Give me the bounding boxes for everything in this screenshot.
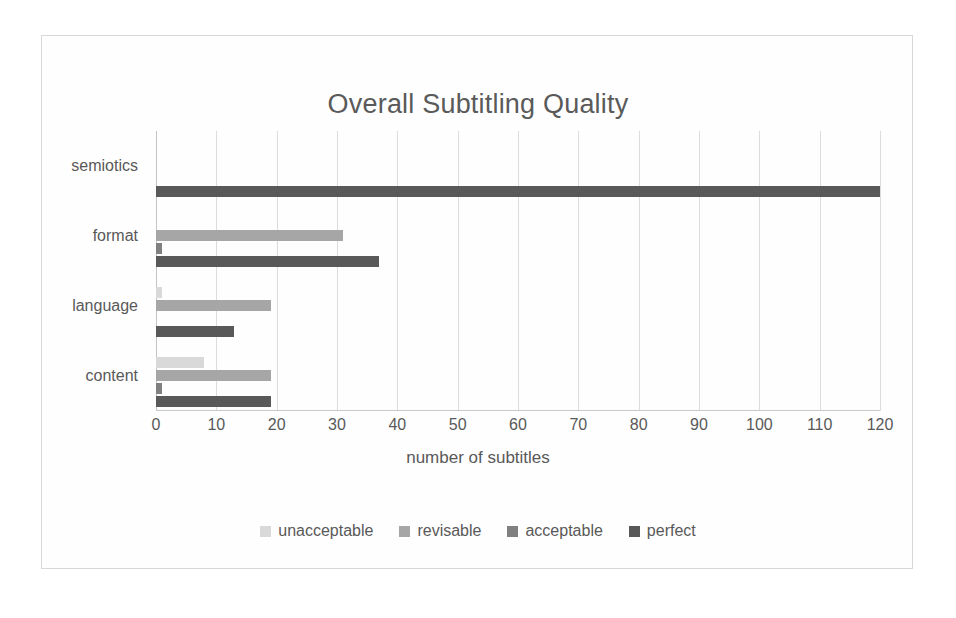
x-tick-label-10: 10 [207,416,225,434]
bar-row [156,173,880,184]
bar [156,357,204,368]
bar-row [156,160,880,171]
bar-row [156,243,880,254]
bar-row [156,383,880,394]
x-axis-line [156,410,880,411]
bar [156,326,234,337]
legend-label: acceptable [525,522,602,540]
x-tick-label-20: 20 [268,416,286,434]
bar [156,370,271,381]
legend-label: revisable [417,522,481,540]
x-axis-title: number of subtitles [42,448,914,468]
bar [156,186,880,197]
legend-label: unacceptable [278,522,373,540]
bar-row [156,396,880,407]
bar [156,230,343,241]
bar-row [156,313,880,324]
x-tick-label-70: 70 [569,416,587,434]
bar-group [156,341,880,411]
x-tick-label-110: 110 [807,416,833,434]
y-axis-category-labels: semioticsformatlanguagecontent [42,131,150,411]
bar-row [156,300,880,311]
y-axis-label-format: format [93,227,138,245]
legend-swatch-icon [260,526,271,537]
bar-row [156,326,880,337]
x-tick-label-0: 0 [152,416,161,434]
chart-frame: Overall Subtitling Quality semioticsform… [41,35,913,569]
legend-item-acceptable[interactable]: acceptable [507,522,602,540]
legend-swatch-icon [399,526,410,537]
bar-row [156,217,880,228]
bar [156,300,271,311]
bar-row [156,357,880,368]
x-tick-label-50: 50 [449,416,467,434]
chart-title: Overall Subtitling Quality [42,89,914,120]
bar [156,287,162,298]
bar [156,383,162,394]
bar [156,243,162,254]
y-axis-label-language: language [72,297,138,315]
y-axis-label-content: content [86,367,138,385]
chart-legend: unacceptablerevisableacceptableperfect [42,522,914,540]
x-tick-label-120: 120 [867,416,894,434]
bar-group [156,271,880,341]
bar-group [156,201,880,271]
bar-row [156,147,880,158]
gridline [880,131,881,411]
x-tick-label-30: 30 [328,416,346,434]
x-axis-tick-labels: 0102030405060708090100110120 [156,416,880,440]
bar-row [156,287,880,298]
legend-label: perfect [647,522,696,540]
x-tick-label-60: 60 [509,416,527,434]
bar [156,256,379,267]
bar-row [156,186,880,197]
legend-item-unacceptable[interactable]: unacceptable [260,522,373,540]
x-tick-label-100: 100 [746,416,773,434]
bar-row [156,230,880,241]
bar [156,396,271,407]
legend-swatch-icon [507,526,518,537]
bar-group [156,131,880,201]
chart-page: Overall Subtitling Quality semioticsform… [0,0,956,618]
plot-area [156,131,880,411]
bar-row [156,256,880,267]
x-tick-label-80: 80 [630,416,648,434]
legend-item-perfect[interactable]: perfect [629,522,696,540]
y-axis-label-semiotics: semiotics [71,157,138,175]
x-tick-label-90: 90 [690,416,708,434]
legend-swatch-icon [629,526,640,537]
legend-item-revisable[interactable]: revisable [399,522,481,540]
x-tick-label-40: 40 [388,416,406,434]
bar-row [156,370,880,381]
